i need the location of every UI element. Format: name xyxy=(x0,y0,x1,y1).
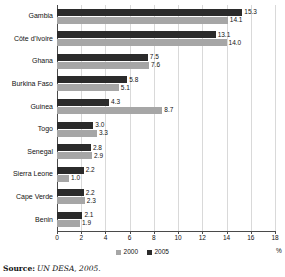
bar-value-label: 1.0 xyxy=(71,175,80,182)
legend-swatch-icon xyxy=(116,250,121,255)
x-axis-tick-label: 14 xyxy=(223,235,230,242)
bar-2000: 14.0 xyxy=(57,39,227,46)
source-text: UN DESA, 2005. xyxy=(37,264,101,273)
x-axis-tick-label: 12 xyxy=(199,235,206,242)
bar-2000: 14.1 xyxy=(57,17,228,24)
bar-value-label: 2.3 xyxy=(87,198,96,205)
x-axis-tick-label: 18 xyxy=(271,235,278,242)
category-row: Gambia15.314.1 xyxy=(57,5,275,28)
x-axis-tick-label: 6 xyxy=(128,235,132,242)
category-label: Senegal xyxy=(27,148,53,156)
bar-value-label: 5.1 xyxy=(121,85,130,92)
bar-value-label: 1.9 xyxy=(82,220,91,227)
bar-2005: 2.2 xyxy=(57,189,84,196)
category-label: Togo xyxy=(38,125,53,133)
bar-2000: 1.9 xyxy=(57,220,80,227)
x-axis-line xyxy=(57,231,275,232)
bar-value-label: 15.3 xyxy=(244,9,257,16)
bar-value-label: 5.8 xyxy=(129,77,138,84)
category-row: Guinea4.38.7 xyxy=(57,95,275,118)
bar-value-label: 8.7 xyxy=(164,107,173,114)
bar-2000: 2.3 xyxy=(57,197,85,204)
x-axis-tick-label: 16 xyxy=(247,235,254,242)
bar-2005: 3.0 xyxy=(57,122,93,129)
bar-value-label: 7.6 xyxy=(151,62,160,69)
bar-value-label: 2.2 xyxy=(86,167,95,174)
category-label: Ghana xyxy=(32,58,53,66)
bar-value-label: 3.3 xyxy=(99,130,108,137)
category-label: Guinea xyxy=(30,103,53,111)
legend-item: 2005 xyxy=(147,249,169,256)
bar-value-label: 13.1 xyxy=(218,31,231,38)
category-row: Sierra Leone2.21.0 xyxy=(57,163,275,186)
legend-swatch-icon xyxy=(147,250,152,255)
category-label: Gambia xyxy=(28,12,53,20)
category-label: Côte d'Ivoire xyxy=(14,35,53,43)
bar-2000: 8.7 xyxy=(57,107,162,114)
bar-value-label: 14.0 xyxy=(229,39,242,46)
x-axis: 024681012141618 xyxy=(57,231,275,247)
bar-2005: 2.2 xyxy=(57,167,84,174)
bar-2005: 5.8 xyxy=(57,76,127,83)
x-axis-tick-label: 4 xyxy=(104,235,108,242)
category-label: Burkina Faso xyxy=(12,80,53,88)
horizontal-bar-chart: Gambia15.314.1Côte d'Ivoire13.114.0Ghana… xyxy=(0,0,285,277)
bar-2005: 2.1 xyxy=(57,212,82,219)
bar-2000: 5.1 xyxy=(57,84,119,91)
category-row: Benin2.11.9 xyxy=(57,208,275,231)
x-axis-tick-label: 2 xyxy=(79,235,83,242)
category-label: Cape Verde xyxy=(16,193,53,201)
category-row: Togo3.03.3 xyxy=(57,118,275,141)
bar-2005: 15.3 xyxy=(57,9,242,16)
source-note: Source: UN DESA, 2005. xyxy=(3,264,101,273)
category-row: Burkina Faso5.85.1 xyxy=(57,73,275,96)
bar-value-label: 7.5 xyxy=(150,54,159,61)
category-row: Ghana7.57.6 xyxy=(57,50,275,73)
bar-2000: 1.0 xyxy=(57,175,69,182)
bar-value-label: 2.2 xyxy=(86,190,95,197)
plot-area: Gambia15.314.1Côte d'Ivoire13.114.0Ghana… xyxy=(57,5,275,231)
category-label: Sierra Leone xyxy=(13,171,53,179)
legend-item: 2000 xyxy=(116,249,138,256)
x-axis-tick-label: 0 xyxy=(55,235,59,242)
bar-2000: 2.9 xyxy=(57,152,92,159)
bar-value-label: 14.1 xyxy=(230,17,243,24)
gridline xyxy=(275,5,276,231)
bar-2005: 13.1 xyxy=(57,31,216,38)
bar-2000: 7.6 xyxy=(57,62,149,69)
bar-value-label: 2.9 xyxy=(94,152,103,159)
bar-2000: 3.3 xyxy=(57,130,97,137)
bars-layer: Gambia15.314.1Côte d'Ivoire13.114.0Ghana… xyxy=(57,5,275,231)
category-row: Côte d'Ivoire13.114.0 xyxy=(57,28,275,51)
bar-2005: 4.3 xyxy=(57,99,109,106)
x-axis-tick-label: 8 xyxy=(152,235,156,242)
category-row: Cape Verde2.22.3 xyxy=(57,186,275,209)
chart-legend: 20002005 xyxy=(0,249,285,256)
category-label: Benin xyxy=(35,216,53,224)
category-row: Senegal2.82.9 xyxy=(57,141,275,164)
bar-2005: 7.5 xyxy=(57,54,148,61)
legend-label: 2005 xyxy=(155,249,169,256)
source-prefix-label: Source: xyxy=(3,264,35,273)
x-axis-tick-label: 10 xyxy=(174,235,181,242)
bar-value-label: 2.1 xyxy=(84,212,93,219)
bar-2005: 2.8 xyxy=(57,144,91,151)
bar-value-label: 4.3 xyxy=(111,99,120,106)
bar-value-label: 2.8 xyxy=(93,144,102,151)
legend-label: 2000 xyxy=(124,249,138,256)
bar-value-label: 3.0 xyxy=(95,122,104,129)
